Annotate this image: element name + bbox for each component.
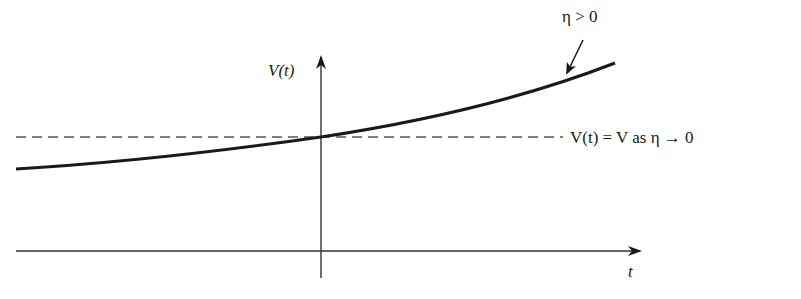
exponential-curve: [16, 63, 615, 169]
asymptote-label: V(t) = V as η → 0: [570, 129, 694, 146]
x-axis-label: t: [628, 263, 633, 280]
curve-label: η > 0: [562, 8, 597, 25]
curve-annotation-arrow: [567, 40, 583, 73]
y-axis-label: V(t): [268, 62, 294, 79]
curve-label-text: η > 0: [562, 7, 597, 26]
diagram-canvas: [0, 0, 801, 299]
